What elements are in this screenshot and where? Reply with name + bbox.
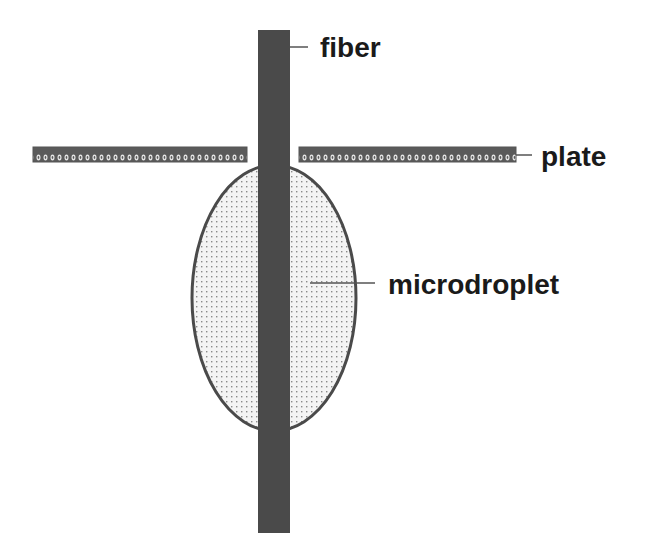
fiber-shape (258, 30, 290, 533)
plate-label: plate (541, 141, 606, 172)
plate-left (33, 147, 247, 162)
microdroplet-diagram: fiber plate microdroplet (0, 0, 653, 558)
plate-right (299, 147, 516, 162)
fiber-label: fiber (320, 32, 381, 63)
microdroplet-label: microdroplet (388, 269, 559, 300)
